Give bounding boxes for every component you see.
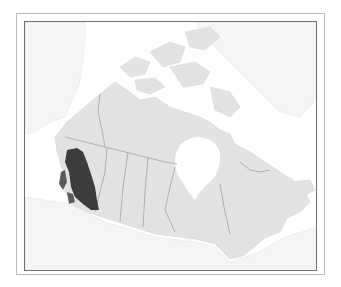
map-frame [24, 21, 317, 271]
arctic-island [170, 62, 210, 87]
arctic-island [150, 42, 185, 67]
arctic-island [135, 78, 165, 94]
baffin-island [210, 87, 240, 117]
canada-map [25, 22, 317, 271]
arctic-island [120, 57, 150, 77]
